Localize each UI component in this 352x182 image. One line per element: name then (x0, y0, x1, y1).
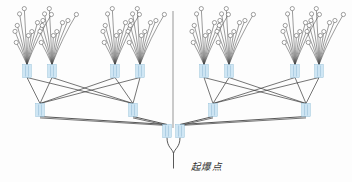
crosslink-3-0 (40, 78, 140, 104)
blast-hole-6-1 (281, 29, 285, 33)
blast-hole-4-4 (199, 7, 203, 11)
level2-connector-2 (209, 104, 218, 117)
network-canvas: 起爆点 (0, 0, 352, 182)
blast-hole-2-7 (123, 21, 127, 25)
blast-hole-4-9 (226, 12, 230, 16)
trunk-wire-b-0 (40, 118, 167, 126)
crosslink-7-2 (213, 78, 319, 104)
blast-hole-3-1 (126, 29, 130, 33)
blast-hole-1-0 (39, 40, 43, 44)
level1-connector-7 (315, 65, 324, 78)
blast-hole-7-4 (314, 7, 318, 11)
blast-hole-6-9 (317, 12, 321, 16)
blasting-network-diagram: 起爆点 (0, 0, 352, 182)
blast-hole-wire-3-1 (128, 31, 140, 64)
crosslink-2-0 (40, 78, 115, 104)
blast-hole-1-2 (40, 23, 44, 27)
level1-connector-0 (23, 65, 32, 78)
crosslink-7-3 (306, 78, 319, 104)
trunk-wire-b-3 (180, 118, 306, 126)
blast-hole-2-2 (103, 23, 107, 27)
blast-hole-1-8 (66, 18, 70, 22)
crosslink-6-2 (213, 78, 295, 104)
level2-connector-1 (129, 104, 138, 117)
crosslink-5-3 (229, 78, 306, 104)
lead-in-left (167, 138, 174, 154)
blast-hole-1-5 (51, 33, 55, 37)
blast-hole-5-2 (217, 23, 221, 27)
blast-hole-4-1 (190, 29, 194, 33)
blast-hole-0-0 (14, 40, 18, 44)
trunk-wire-3 (180, 117, 306, 125)
blast-hole-1-4 (47, 7, 51, 11)
blast-hole-7-1 (305, 29, 309, 33)
blast-hole-6-6 (298, 29, 302, 33)
blast-hole-1-6 (55, 29, 59, 33)
blast-hole-3-5 (139, 33, 143, 37)
blast-hole-4-0 (191, 40, 195, 44)
blast-hole-2-5 (114, 33, 118, 37)
blast-hole-4-3 (194, 12, 198, 16)
blast-hole-4-5 (203, 33, 207, 37)
lead-in-right (174, 138, 181, 154)
crosslink-3-1 (133, 78, 140, 104)
blast-hole-7-8 (333, 18, 337, 22)
blast-hole-2-3 (105, 12, 109, 16)
blast-hole-wire-4-1 (192, 31, 204, 64)
blast-hole-7-7 (327, 21, 331, 25)
blast-hole-4-2 (192, 23, 196, 27)
blast-hole-0-5 (26, 33, 30, 37)
blast-hole-0-4 (22, 7, 26, 11)
detonation-connector-1 (176, 125, 185, 138)
blast-hole-2-9 (137, 12, 141, 16)
level1-connector-2 (111, 65, 120, 78)
level1-connector-1 (48, 65, 57, 78)
blast-hole-5-3 (219, 12, 223, 16)
blast-hole-2-6 (118, 29, 122, 33)
blast-hole-2-1 (101, 29, 105, 33)
blast-hole-wire-7-1 (307, 31, 319, 64)
blast-hole-7-5 (318, 33, 322, 37)
blast-hole-1-1 (38, 29, 42, 33)
blast-hole-7-6 (322, 29, 326, 33)
blast-hole-5-4 (224, 7, 228, 11)
blast-hole-7-2 (307, 23, 311, 27)
blast-hole-wire-6-1 (283, 31, 295, 64)
blast-hole-3-7 (148, 21, 152, 25)
level1-connector-5 (225, 65, 234, 78)
detonation-connector-0 (163, 125, 172, 138)
blast-hole-6-4 (290, 7, 294, 11)
blast-hole-5-9 (251, 12, 255, 16)
blast-hole-0-3 (17, 12, 21, 16)
blast-hole-2-4 (110, 7, 114, 11)
blast-hole-5-6 (232, 29, 236, 33)
blast-hole-1-9 (74, 12, 78, 16)
blast-hole-3-2 (128, 23, 132, 27)
level1-connector-3 (136, 65, 145, 78)
blast-hole-7-0 (306, 40, 310, 44)
blast-hole-5-7 (237, 21, 241, 25)
blast-hole-3-3 (130, 12, 134, 16)
blast-hole-7-9 (341, 12, 345, 16)
crosslink-5-2 (213, 78, 229, 104)
crosslink-0-1 (27, 78, 133, 104)
blast-hole-3-9 (162, 12, 166, 16)
blast-hole-7-3 (309, 12, 313, 16)
blast-hole-3-6 (143, 29, 147, 33)
blast-hole-0-2 (15, 23, 19, 27)
blast-hole-3-8 (154, 18, 158, 22)
blast-hole-0-9 (49, 12, 53, 16)
blast-hole-0-6 (30, 29, 34, 33)
crosslink-1-1 (52, 78, 133, 104)
blast-hole-0-8 (41, 18, 45, 22)
blast-hole-4-7 (212, 21, 216, 25)
blast-hole-6-8 (309, 18, 313, 22)
trunk-wire-0 (40, 117, 167, 125)
blast-hole-2-0 (102, 40, 106, 44)
blast-hole-4-6 (207, 29, 211, 33)
level1-connector-4 (200, 65, 209, 78)
blast-hole-0-1 (13, 29, 17, 33)
crosslink-4-2 (204, 78, 213, 104)
blast-hole-5-1 (215, 29, 219, 33)
blast-hole-6-5 (294, 33, 298, 37)
